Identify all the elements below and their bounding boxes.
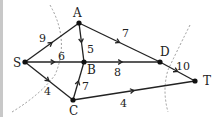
edge-weight-C-T: 4 <box>120 97 127 110</box>
node-D <box>157 59 162 64</box>
node-S <box>22 59 27 64</box>
node-label-D: D <box>160 45 170 59</box>
node-C <box>70 97 75 102</box>
edge-weight-S-C: 4 <box>44 85 51 98</box>
node-label-C: C <box>69 104 78 117</box>
node-label-S: S <box>13 56 21 70</box>
node-label-A: A <box>72 6 82 20</box>
edge-weight-C-B: 7 <box>82 80 89 93</box>
edge-weight-A-B: 5 <box>87 43 94 56</box>
network-graph: 9645787410SABCDT <box>0 0 215 117</box>
node-B <box>81 59 86 64</box>
edge-weight-A-D: 7 <box>122 27 129 40</box>
node-A <box>76 20 81 25</box>
edge-weight-D-T: 10 <box>176 60 190 73</box>
node-label-T: T <box>203 74 211 88</box>
edge-weight-S-A: 9 <box>39 32 46 45</box>
edge-weight-B-D: 8 <box>114 66 121 79</box>
node-T <box>192 78 197 83</box>
edge-weight-S-B: 6 <box>58 50 65 63</box>
node-label-B: B <box>87 63 96 77</box>
network-diagram: 9645787410SABCDT <box>0 0 215 117</box>
